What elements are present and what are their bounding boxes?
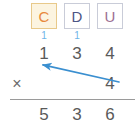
product-digit-tens: 3: [64, 106, 90, 123]
place-value-label-hundreds: C: [39, 9, 50, 24]
carry-digit-hundreds: 1: [31, 31, 57, 41]
place-value-label-units: U: [105, 9, 116, 24]
place-value-box-units[interactable]: U: [97, 3, 123, 29]
product-digit-units: 6: [97, 106, 123, 123]
multiplication-worksheet: C D U 1 1 1 3 4 × 4 5 3 6: [0, 0, 140, 139]
place-value-box-hundreds[interactable]: C: [31, 3, 57, 29]
multiplicand-digit-hundreds: 1: [31, 45, 57, 62]
multiplicand-digit-tens: 3: [64, 45, 90, 62]
place-value-label-tens: D: [72, 9, 83, 24]
multiplier-digit-units: 4: [97, 75, 123, 92]
answer-rule: [10, 99, 135, 100]
multiplication-sign: ×: [9, 76, 25, 92]
multiplicand-digit-units: 4: [97, 45, 123, 62]
place-value-box-tens[interactable]: D: [64, 3, 90, 29]
carry-digit-tens: 1: [64, 31, 90, 41]
product-digit-hundreds: 5: [31, 106, 57, 123]
